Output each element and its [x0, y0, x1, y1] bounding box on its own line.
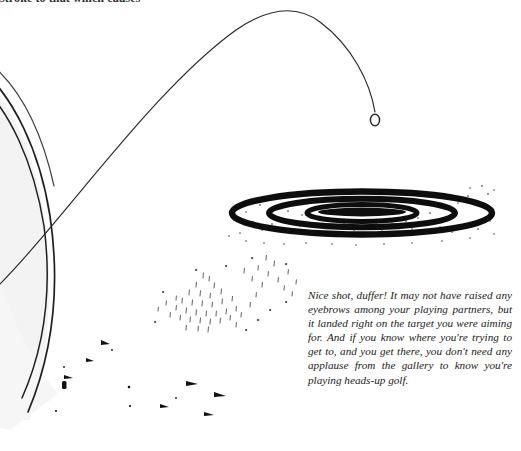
target-bullseye	[318, 208, 406, 217]
grass-tufts-left	[55, 340, 226, 416]
illustration-page: stroke to that which causes	[0, 0, 521, 451]
ball-flight-trajectory	[0, 11, 375, 292]
green-shading	[0, 70, 58, 430]
grass-speckle-cluster	[154, 255, 296, 332]
caption-text: Nice shot, duffer! It may not have raise…	[308, 288, 512, 387]
golf-ball	[370, 114, 379, 126]
